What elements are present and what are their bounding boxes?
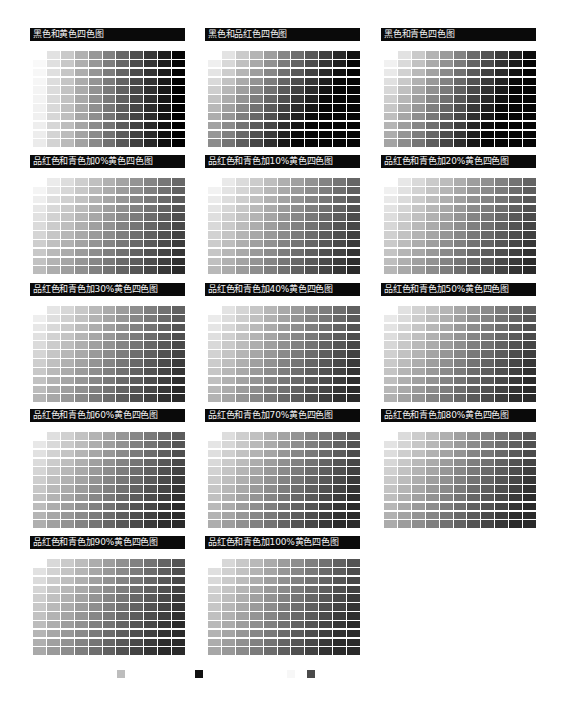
color-swatch: [222, 350, 235, 358]
color-swatch: [523, 432, 536, 440]
color-swatch: [208, 621, 221, 629]
color-swatch: [347, 86, 360, 94]
color-swatch: [426, 359, 439, 367]
color-swatch: [250, 213, 263, 221]
color-swatch: [278, 69, 291, 77]
color-swatch: [144, 196, 157, 204]
color-swatch: [523, 368, 536, 376]
color-swatch: [222, 213, 235, 221]
swatch-grid: [384, 306, 536, 402]
color-swatch: [236, 315, 249, 323]
color-swatch: [144, 359, 157, 367]
color-swatch: [523, 78, 536, 86]
color-swatch: [278, 630, 291, 638]
color-swatch: [158, 368, 171, 376]
color-swatch: [495, 213, 508, 221]
color-swatch: [33, 612, 46, 620]
chart-panel-mc-20: 品红色和青色加20%黄色四色图: [381, 155, 537, 277]
panel-title: 品红色和青色加30%黄色四色图: [30, 283, 185, 296]
color-swatch: [481, 350, 494, 358]
color-swatch: [467, 78, 480, 86]
color-swatch: [509, 113, 522, 121]
color-swatch: [398, 359, 411, 367]
color-swatch: [158, 630, 171, 638]
color-swatch: [384, 231, 397, 239]
color-swatch: [467, 377, 480, 385]
color-swatch: [144, 139, 157, 147]
color-swatch: [509, 178, 522, 186]
color-swatch: [116, 568, 129, 576]
color-swatch: [509, 485, 522, 493]
color-swatch: [278, 86, 291, 94]
color-swatch: [495, 324, 508, 332]
color-swatch: [89, 621, 102, 629]
color-swatch: [440, 450, 453, 458]
color-swatch: [208, 266, 221, 274]
color-swatch: [236, 205, 249, 213]
color-swatch: [454, 51, 467, 59]
color-swatch: [172, 350, 185, 358]
color-swatch: [116, 386, 129, 394]
color-swatch: [116, 205, 129, 213]
color-swatch: [250, 630, 263, 638]
color-swatch: [509, 359, 522, 367]
color-swatch: [305, 485, 318, 493]
color-swatch: [172, 315, 185, 323]
color-swatch: [236, 60, 249, 68]
color-swatch: [481, 494, 494, 502]
color-swatch: [426, 258, 439, 266]
color-swatch: [103, 639, 116, 647]
color-swatch: [75, 205, 88, 213]
color-swatch: [440, 139, 453, 147]
color-swatch: [523, 441, 536, 449]
color-swatch: [426, 432, 439, 440]
color-swatch: [426, 231, 439, 239]
color-swatch: [47, 240, 60, 248]
color-swatch: [222, 240, 235, 248]
color-swatch: [509, 324, 522, 332]
color-swatch: [33, 603, 46, 611]
color-swatch: [440, 51, 453, 59]
color-swatch: [426, 503, 439, 511]
color-swatch: [291, 78, 304, 86]
color-swatch: [481, 69, 494, 77]
color-swatch: [481, 520, 494, 528]
color-swatch: [523, 467, 536, 475]
color-swatch: [347, 249, 360, 257]
color-swatch: [75, 603, 88, 611]
swatch-grid: [33, 559, 185, 655]
color-swatch: [454, 122, 467, 130]
color-swatch: [305, 577, 318, 585]
color-swatch: [467, 520, 480, 528]
color-swatch: [61, 621, 74, 629]
swatch-grid: [208, 51, 360, 147]
color-swatch: [319, 113, 332, 121]
color-swatch: [158, 450, 171, 458]
color-swatch: [412, 368, 425, 376]
color-swatch: [412, 467, 425, 475]
color-swatch: [398, 266, 411, 274]
color-swatch: [89, 95, 102, 103]
color-swatch: [33, 485, 46, 493]
color-swatch: [75, 122, 88, 130]
color-swatch: [264, 359, 277, 367]
color-swatch: [291, 258, 304, 266]
color-swatch: [75, 577, 88, 585]
color-swatch: [454, 113, 467, 121]
color-swatch: [222, 503, 235, 511]
color-swatch: [333, 512, 346, 520]
color-swatch: [33, 249, 46, 257]
color-swatch: [278, 350, 291, 358]
color-swatch: [319, 568, 332, 576]
color-swatch: [426, 86, 439, 94]
color-swatch: [158, 78, 171, 86]
color-swatch: [236, 568, 249, 576]
color-swatch: [481, 441, 494, 449]
swatch-grid: [33, 306, 185, 402]
color-swatch: [116, 359, 129, 367]
color-swatch: [384, 350, 397, 358]
color-swatch: [454, 86, 467, 94]
color-swatch: [89, 222, 102, 230]
color-swatch: [47, 394, 60, 402]
color-swatch: [250, 577, 263, 585]
